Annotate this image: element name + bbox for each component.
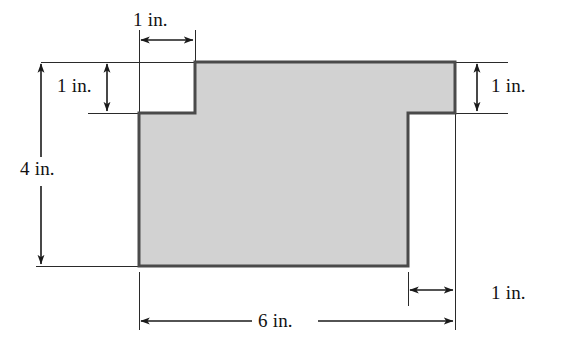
label-top-notch-depth: 1 in. xyxy=(55,76,94,96)
label-top-notch-width: 1 in. xyxy=(131,10,170,30)
label-right-notch-width: 1 in. xyxy=(489,283,528,303)
shaded-polygon xyxy=(139,62,455,266)
geometry-figure: 1 in. 1 in. 4 in. 1 in. 1 in. 6 in. xyxy=(0,0,563,346)
label-overall-width: 6 in. xyxy=(256,311,295,331)
label-overall-height: 4 in. xyxy=(18,159,57,179)
label-right-notch-depth: 1 in. xyxy=(489,76,528,96)
figure-canvas xyxy=(0,0,563,346)
